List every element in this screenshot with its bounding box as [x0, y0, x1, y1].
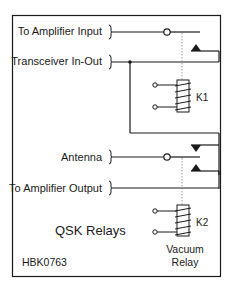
label-k2: K2 — [196, 217, 209, 228]
brace-transceiver-icon — [109, 55, 112, 69]
label-amp-output: To Amplifier Output — [9, 182, 102, 194]
k2-common-terminal — [164, 154, 170, 160]
brace-amp-input-icon — [109, 25, 112, 39]
k2-coil-icon — [175, 205, 191, 236]
k1-contact-up-icon — [191, 44, 201, 51]
k2-coil-terminal-bottom — [153, 230, 157, 234]
k1-coil-icon — [175, 80, 191, 112]
label-transceiver: Transceiver In-Out — [11, 55, 102, 67]
figure-id: HBK0763 — [22, 256, 67, 268]
k1-common-terminal — [164, 29, 170, 35]
brace-antenna-icon — [109, 150, 112, 164]
k1-coil-terminal-bottom — [153, 105, 157, 109]
qsk-relay-schematic: To Amplifier Input Transceiver In-Out K1… — [0, 0, 233, 282]
brace-amp-output-icon — [109, 181, 112, 195]
k2-note-line1: Vacuum — [166, 243, 204, 255]
k2-contact-down-icon — [191, 145, 201, 152]
diagram-title: QSK Relays — [55, 223, 126, 238]
k1-coil-terminal-top — [153, 83, 157, 87]
label-amp-input: To Amplifier Input — [18, 25, 102, 37]
k2-coil-terminal-top — [153, 209, 157, 213]
k2-note-line2: Relay — [172, 256, 200, 268]
label-antenna: Antenna — [61, 151, 103, 163]
label-k1: K1 — [196, 92, 209, 103]
k2-contact-up-icon — [191, 164, 201, 171]
